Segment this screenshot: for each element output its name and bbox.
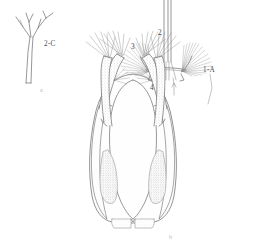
panel-letter-a: a [40,87,43,93]
label-1-a: 1-A [203,66,216,74]
figure-container: 2-C a [0,0,266,244]
label-3: 3 [131,43,135,51]
panel-letter-b: b [169,234,172,240]
panel-a-branched-seta: 2-C a [16,11,56,93]
seta-branch-right [33,11,53,37]
label-4: 4 [150,84,154,92]
seta-branch-left [16,17,30,37]
label-2: 2 [158,29,162,37]
unlabeled-leader [172,83,176,95]
anatomical-drawing: 2-C a [0,0,266,244]
seta-shaft [26,37,33,83]
seta-label-2c: 2-C [44,40,56,48]
seta-branch-center [26,13,33,37]
panel-b-head-capsule: 2 3 1-A 4 b [86,0,216,240]
label-1a-leader [208,74,212,104]
